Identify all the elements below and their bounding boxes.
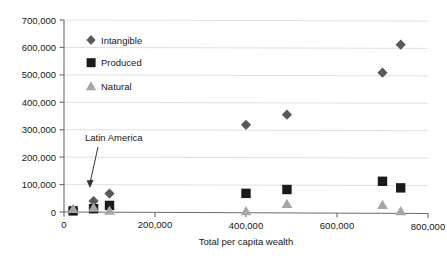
data-point-square[interactable] — [378, 177, 387, 186]
annotation-arrowhead — [87, 180, 94, 188]
x-tick-label: 400,000 — [229, 220, 263, 231]
x-tick-label: 200,000 — [138, 219, 172, 230]
data-point-square[interactable] — [282, 185, 291, 194]
y-tick-label: 200,000 — [22, 152, 56, 163]
data-point-triangle[interactable] — [241, 206, 252, 215]
y-tick-label: 100,000 — [22, 179, 56, 190]
series-produced — [68, 177, 405, 216]
annotation-leader-line — [90, 147, 98, 183]
data-point-triangle[interactable] — [282, 199, 293, 208]
scatter-chart: 700,000 600,000 500,000 400,000 300,000 … — [0, 0, 447, 258]
x-tick-label: 600,000 — [320, 220, 354, 231]
data-point-diamond[interactable] — [377, 68, 387, 78]
data-point-triangle[interactable] — [377, 200, 388, 209]
annotation-label: Latin America — [85, 132, 143, 143]
legend-item-intangible[interactable]: Intangible — [86, 35, 142, 46]
legend-item-produced[interactable]: Produced — [87, 57, 142, 68]
y-tick-label: 700,000 — [22, 15, 56, 26]
data-point-diamond[interactable] — [241, 120, 251, 130]
triangle-marker-icon — [86, 81, 96, 90]
gridline-400000 — [64, 102, 428, 103]
x-tick-label: 800,000 — [411, 221, 445, 232]
x-tick-label: 0 — [61, 219, 66, 230]
legend-label: Produced — [101, 57, 142, 68]
y-axis-ticks — [60, 20, 65, 212]
y-tick-label: 600,000 — [22, 42, 56, 53]
chart-legend: Intangible Produced Natural — [86, 35, 142, 92]
y-tick-label: 400,000 — [22, 97, 56, 108]
y-tick-label: 500,000 — [22, 69, 56, 80]
gridline-200000 — [64, 157, 428, 158]
square-marker-icon — [87, 58, 96, 67]
y-axis-labels: 700,000 600,000 500,000 400,000 300,000 … — [22, 15, 56, 218]
data-point-square[interactable] — [396, 183, 405, 192]
gridline-600000 — [64, 47, 428, 48]
gridline-100000 — [64, 185, 428, 186]
data-point-square[interactable] — [241, 189, 250, 198]
data-point-diamond[interactable] — [282, 110, 292, 120]
y-tick-label: 0 — [51, 207, 56, 218]
data-point-triangle[interactable] — [395, 206, 406, 215]
gridline-500000 — [64, 75, 428, 76]
gridline-700000 — [64, 20, 428, 21]
latin-america-annotation: Latin America — [85, 132, 143, 188]
y-tick-label: 300,000 — [22, 124, 56, 135]
legend-item-natural[interactable]: Natural — [86, 81, 132, 92]
data-point-diamond[interactable] — [104, 189, 114, 199]
x-axis-title: Total per capita wealth — [199, 236, 294, 247]
diamond-marker-icon — [86, 35, 95, 45]
legend-label: Natural — [101, 81, 132, 92]
legend-label: Intangible — [101, 35, 142, 46]
chart-canvas: 700,000 600,000 500,000 400,000 300,000 … — [0, 0, 447, 258]
x-axis-labels: 0 200,000 400,000 600,000 800,000 — [61, 219, 445, 232]
